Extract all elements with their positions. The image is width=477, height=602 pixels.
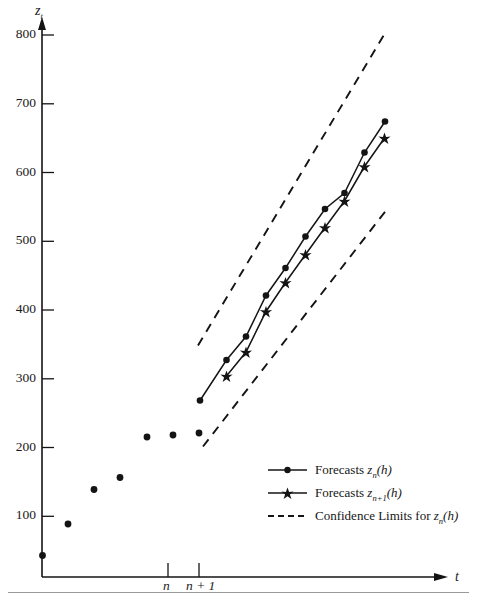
forecast-figure: zt t 800 700 600 500 400 300 200 100 n n… <box>0 0 477 602</box>
x-axis-label: t <box>455 569 459 585</box>
y-axis-label-subscript: t <box>40 11 42 21</box>
y-tick-label-100: 100 <box>0 507 36 523</box>
y-tick-label-300: 300 <box>0 370 36 386</box>
chart-text-layer: zt t 800 700 600 500 400 300 200 100 n n… <box>0 0 477 602</box>
legend-forecasts-n1-arg: (h) <box>387 485 402 500</box>
legend-forecasts-n-prefix: Forecasts <box>315 462 367 477</box>
y-axis-label: zt <box>35 3 43 21</box>
legend-forecasts-n1-subscript: n+1 <box>372 493 386 503</box>
bottom-rule <box>8 592 469 593</box>
y-tick-label-500: 500 <box>0 232 36 248</box>
y-tick-label-600: 600 <box>0 164 36 180</box>
y-tick-label-400: 400 <box>0 301 36 317</box>
legend-item-confidence-limits-label: Confidence Limits for zn(h) <box>315 508 458 526</box>
legend-item-forecasts-n-label: Forecasts zn(h) <box>315 462 392 480</box>
legend-forecasts-n-arg: (h) <box>377 462 392 477</box>
legend-ci-prefix: Confidence Limits for <box>315 508 434 523</box>
legend-item-forecasts-n-plus-1-label: Forecasts zn+1(h) <box>315 485 402 503</box>
y-tick-label-200: 200 <box>0 439 36 455</box>
legend-ci-arg: (h) <box>443 508 458 523</box>
y-tick-label-800: 800 <box>0 26 36 42</box>
y-tick-label-700: 700 <box>0 95 36 111</box>
legend-forecasts-n1-prefix: Forecasts <box>315 485 367 500</box>
